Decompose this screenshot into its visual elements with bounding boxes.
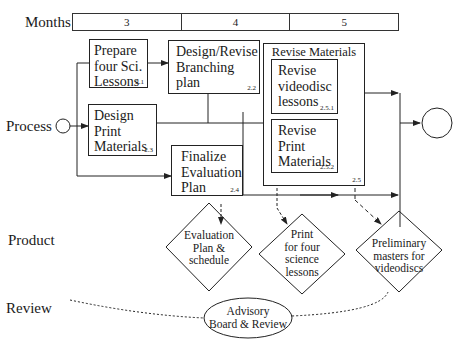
review-node-label: Advisory Board & Review xyxy=(206,305,290,330)
row-label-product: Product xyxy=(8,232,55,248)
row-label-review: Review xyxy=(6,300,52,316)
task-label: Design Print Materials xyxy=(94,108,147,155)
task-label: Design/Revise Branching plan xyxy=(176,44,258,91)
group-title: Revise Materials xyxy=(264,46,364,59)
task-number: 2.4 xyxy=(230,186,239,194)
task-box-2-2[interactable]: Design/Revise Branching plan 2.2 xyxy=(168,40,260,94)
subtask-number: 2.5.2 xyxy=(320,163,334,171)
subtask-box-2-5-2[interactable]: Revise Print Materials 2.5.2 xyxy=(271,119,338,173)
task-box-2-3[interactable]: Design Print Materials 2.3 xyxy=(88,104,157,156)
product-label-evaluation-plan: Evaluation Plan & schedule xyxy=(174,229,244,267)
subtask-number: 2.5.1 xyxy=(320,104,334,112)
product-label-videodisc-masters: Preliminary masters for videodiscs xyxy=(358,237,440,275)
month-cell: 5 xyxy=(290,14,398,30)
subtask-box-2-5-1[interactable]: Revise videodisc lessons 2.5.1 xyxy=(271,59,338,114)
task-box-2-1[interactable]: Prepare four Sci. Lessons 2.1 xyxy=(89,39,148,88)
month-cell: 4 xyxy=(182,14,291,30)
start-node-circle xyxy=(56,119,70,133)
product-label-print-lessons: Print for four science lessons xyxy=(268,228,336,278)
month-cell: 3 xyxy=(73,14,182,30)
end-node-circle xyxy=(422,108,452,138)
timeline-label: Months xyxy=(25,14,71,30)
task-number: 2.1 xyxy=(135,78,144,86)
task-number: 2.3 xyxy=(144,146,153,154)
task-box-2-4[interactable]: Finalize Evaluation Plan 2.4 xyxy=(171,145,243,196)
task-number: 2.2 xyxy=(247,84,256,92)
subtask-label: Revise videodisc lessons xyxy=(278,63,332,110)
timeline-bar: 3 4 5 xyxy=(72,13,399,31)
group-number: 2.5 xyxy=(352,176,361,184)
row-label-process: Process xyxy=(6,118,52,134)
task-group-2-5[interactable]: Revise Materials 2.5 Revise videodisc le… xyxy=(263,43,365,186)
